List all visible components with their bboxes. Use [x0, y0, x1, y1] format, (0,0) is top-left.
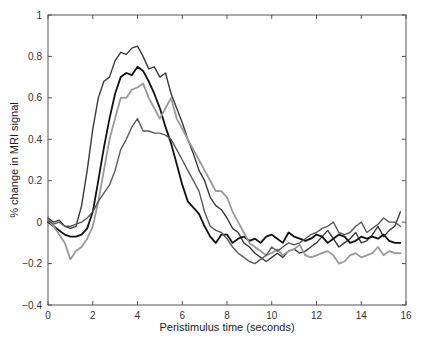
line-chart: 0246810121416 −0.4−0.200.20.40.60.81 Per… — [0, 0, 424, 349]
y-tick-label: 0 — [36, 217, 42, 228]
y-tick-label: 0.4 — [28, 134, 42, 145]
y-tick-label: 0.8 — [28, 51, 42, 62]
y-tick-label: 0.2 — [28, 175, 42, 186]
x-tick-label: 2 — [90, 310, 96, 321]
x-tick-label: 4 — [135, 310, 141, 321]
x-tick-label: 12 — [311, 310, 323, 321]
x-axis-label: Peristimulus time (seconds) — [159, 321, 294, 333]
x-tick-label: 16 — [400, 310, 412, 321]
y-tick-label: −0.4 — [22, 300, 42, 311]
x-tick-label: 0 — [45, 310, 51, 321]
x-tick-label: 10 — [266, 310, 278, 321]
y-tick-label: 1 — [36, 10, 42, 21]
x-tick-label: 8 — [224, 310, 230, 321]
x-tick-label: 14 — [356, 310, 368, 321]
y-tick-label: −0.2 — [22, 258, 42, 269]
x-tick-label: 6 — [179, 310, 185, 321]
y-axis-label: % change in MRI signal — [8, 102, 20, 218]
y-tick-label: 0.6 — [28, 92, 42, 103]
